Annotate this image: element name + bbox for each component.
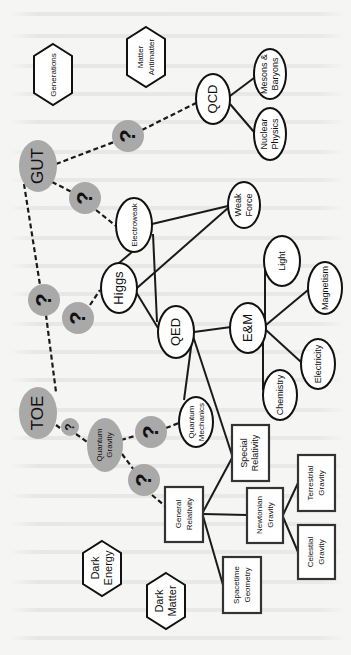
node-newtonian-gravity[interactable]: Newtonian Gravity xyxy=(247,488,283,543)
node-label-line2: Baryons xyxy=(270,57,280,91)
edge-electroweak-weak xyxy=(152,206,228,224)
edge-em-electricity xyxy=(266,330,301,362)
node-label: Electroweak xyxy=(130,202,139,247)
unknown-node-general-relativity[interactable]: ? xyxy=(128,464,160,496)
node-light[interactable]: Light xyxy=(264,236,300,286)
node-dark-matter[interactable]: Dark Matter xyxy=(147,573,185,629)
unknown-node-electroweak[interactable]: ? xyxy=(69,182,101,214)
node-label-line2: Gravity xyxy=(317,539,326,564)
node-label-line1: Newtonian xyxy=(255,496,264,534)
node-label-line2: Antimatter xyxy=(147,38,156,75)
node-label-line2: Gravity xyxy=(105,432,114,457)
node-label: Magnetism xyxy=(320,266,330,310)
node-label-line1: Mesons & xyxy=(259,54,269,94)
node-label-line2: Physics xyxy=(270,118,280,150)
node-celestial-gravity[interactable]: Celestial Gravity xyxy=(298,525,335,579)
node-nuclear-physics[interactable]: Nuclear Physics xyxy=(254,108,286,160)
node-label: QCD xyxy=(205,85,220,114)
question-mark-icon: ? xyxy=(72,191,97,204)
node-label-line1: Dark xyxy=(153,589,165,613)
edge-newtonian-celestial xyxy=(283,517,298,552)
node-label: Generations xyxy=(49,53,58,97)
node-label-line2: Gravity xyxy=(317,470,326,495)
edge-gut-qqcd xyxy=(56,142,114,164)
node-label: E&M xyxy=(240,314,255,342)
node-label-line1: General xyxy=(174,500,183,529)
node-em[interactable]: E&M xyxy=(230,303,266,353)
node-label: Chemistry xyxy=(275,374,285,415)
edge-electroweak-higgs xyxy=(119,252,132,263)
question-mark-icon: ? xyxy=(31,293,56,306)
edge-qg-qqm xyxy=(121,436,135,440)
node-label-line1: Terrestrial xyxy=(306,465,315,500)
node-label-line1: Spacetime xyxy=(232,566,241,604)
edge-qgr-gr xyxy=(152,495,165,506)
node-electricity[interactable]: Electricity xyxy=(301,339,335,389)
edge-qg-qgr xyxy=(122,454,134,470)
node-label-line2: Force xyxy=(244,193,254,216)
node-label: GUT xyxy=(28,148,47,184)
node-gut[interactable]: GUT xyxy=(19,140,57,192)
node-label-line1: Celestial xyxy=(306,536,315,567)
node-label: QED xyxy=(168,318,183,346)
node-label-line2: Gravity xyxy=(266,502,275,527)
edge-gr-sr xyxy=(203,458,232,512)
node-terrestrial-gravity[interactable]: Terrestrial Gravity xyxy=(298,455,335,511)
node-weak-force[interactable]: Weak Force xyxy=(228,182,260,228)
node-label-line2: Matter xyxy=(166,585,178,617)
edge-qcd-nuclear xyxy=(230,104,254,132)
edge-electroweak-qed xyxy=(153,234,157,322)
node-generations[interactable]: Generations xyxy=(34,44,72,105)
question-mark-icon: ? xyxy=(65,311,90,324)
node-label: TOE xyxy=(28,396,47,431)
node-label-line1: Nuclear xyxy=(259,118,269,149)
node-spacetime-geometry[interactable]: Spacetime Geometry xyxy=(223,557,261,613)
unknown-node-small[interactable]: ? xyxy=(61,418,79,436)
node-label: Higgs xyxy=(111,271,126,305)
question-mark-icon: ? xyxy=(115,129,140,142)
edge-gr-newtonian xyxy=(203,514,247,515)
node-label-line2: Energy xyxy=(102,550,114,585)
node-label: Electricity xyxy=(313,344,323,383)
edge-newtonian-terrestrial xyxy=(283,483,298,515)
edge-qcd-mesons xyxy=(230,78,254,96)
node-toe[interactable]: TOE xyxy=(19,387,57,439)
node-label-line2: Relativity xyxy=(250,434,260,471)
node-electroweak[interactable]: Electroweak xyxy=(116,198,152,252)
node-label-line2: Relativity xyxy=(185,498,194,530)
edge-qqcd-qcd xyxy=(142,103,196,130)
edge-higgs-qed xyxy=(136,292,158,328)
node-label: Light xyxy=(277,251,287,271)
node-special-relativity[interactable]: Special Relativity xyxy=(232,425,269,481)
edge-em-magnetism xyxy=(266,290,308,325)
edge-qqm-qm xyxy=(166,423,179,428)
node-label-line1: Special xyxy=(239,438,249,468)
question-mark-icon: ? xyxy=(63,423,77,430)
unknown-node-quantum-mechanics[interactable]: ? xyxy=(135,416,167,448)
node-label-line1: Quantum xyxy=(95,428,104,461)
node-qed[interactable]: QED xyxy=(158,306,194,358)
unknown-node-toe-gut[interactable]: ? xyxy=(28,284,60,316)
node-quantum-mechanics[interactable]: Quantum Mechanics xyxy=(179,397,213,447)
node-magnetism[interactable]: Magnetism xyxy=(308,262,342,314)
question-mark-icon: ? xyxy=(138,425,163,438)
node-mesons-baryons[interactable]: Mesons & Baryons xyxy=(254,49,286,99)
node-chemistry[interactable]: Chemistry xyxy=(263,370,297,420)
node-label-line1: Matter xyxy=(136,45,145,68)
node-dark-energy[interactable]: Dark Energy xyxy=(83,541,121,596)
question-mark-icon: ? xyxy=(131,473,156,486)
node-general-relativity[interactable]: General Relativity xyxy=(165,487,203,542)
node-label-line2: Geometry xyxy=(243,567,252,602)
node-quantum-gravity[interactable]: Quantum Gravity xyxy=(87,418,123,472)
edge-qed-em xyxy=(194,327,231,332)
node-label-line1: Dark xyxy=(89,556,101,580)
unknown-node-higgs[interactable]: ? xyxy=(62,302,94,334)
node-qcd[interactable]: QCD xyxy=(196,74,230,124)
node-higgs[interactable]: Higgs xyxy=(101,263,137,313)
node-label-line1: Quantum xyxy=(187,405,196,438)
edge-qhiggs-higgs xyxy=(90,290,100,305)
node-matter-antimatter[interactable]: Matter Antimatter xyxy=(127,27,165,87)
edge-gr-spacetime xyxy=(203,516,223,585)
unknown-node-qcd[interactable]: ? xyxy=(112,120,144,152)
edge-q1-toe xyxy=(46,315,56,392)
